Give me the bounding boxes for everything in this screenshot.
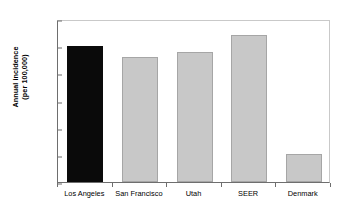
y-tick-mark xyxy=(58,184,62,185)
x-tick-mark xyxy=(221,183,222,187)
bar xyxy=(67,46,103,182)
x-tick-mark xyxy=(275,183,276,187)
x-tick-mark xyxy=(166,183,167,187)
bar xyxy=(231,35,267,182)
plot-area xyxy=(57,20,330,183)
bar xyxy=(122,57,158,182)
x-tick-label: Utah xyxy=(186,189,202,198)
y-axis-title: Annual incidence (per 100,000) xyxy=(11,22,29,132)
y-tick-mark xyxy=(58,75,62,76)
x-tick-label: Los Angeles xyxy=(64,189,104,198)
x-tick-mark xyxy=(112,183,113,187)
x-tick-label: Denmark xyxy=(288,189,318,198)
x-tick-label: SEER xyxy=(238,189,258,198)
y-axis-title-line1: Annual incidence xyxy=(11,22,20,132)
y-tick-mark xyxy=(58,156,62,157)
x-tick-mark xyxy=(57,183,58,187)
y-tick-mark xyxy=(58,102,62,103)
x-tick-label: San Francisco xyxy=(115,189,162,198)
x-tick-mark xyxy=(330,183,331,187)
bar xyxy=(177,52,213,182)
bar xyxy=(286,154,322,182)
y-tick-mark xyxy=(58,21,62,22)
y-tick-mark xyxy=(58,48,62,49)
bar-chart: Annual incidence (per 100,000) 0.00.51.0… xyxy=(0,0,348,206)
y-tick-mark xyxy=(58,129,62,130)
y-axis-title-line2: (per 100,000) xyxy=(20,22,29,132)
